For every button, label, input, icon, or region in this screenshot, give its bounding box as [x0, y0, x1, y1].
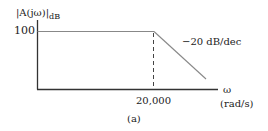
x-axis-units: (rad/s) — [220, 99, 253, 109]
x-tick-corner-frequency: 20,000 — [136, 96, 171, 106]
y-axis-label-subscript: dB — [49, 12, 60, 21]
bode-magnitude-figure: |A(jω)|dB 100 −20 dB/dec 20,000 ω (rad/s… — [0, 0, 268, 131]
slope-annotation: −20 dB/dec — [182, 37, 241, 47]
y-tick-100: 100 — [14, 25, 35, 36]
y-axis-label-main: |A(jω)| — [16, 7, 49, 18]
y-axis-label: |A(jω)|dB — [16, 8, 60, 21]
figure-caption: (a) — [127, 114, 141, 124]
x-axis-symbol: ω — [223, 85, 231, 95]
